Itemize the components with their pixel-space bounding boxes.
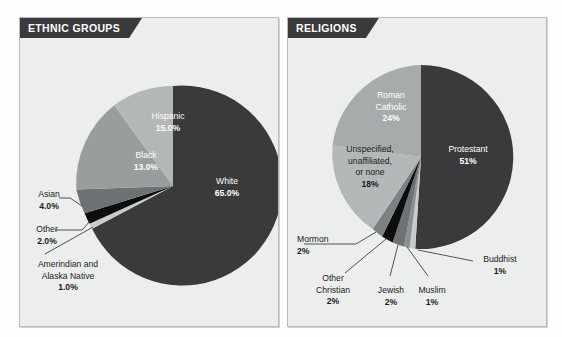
figure-root: ETHNIC GROUPS White 65.0% (0, 0, 562, 337)
slice-label-other-christian: Other Christian 2% (298, 273, 368, 308)
panel-ethnic-groups: ETHNIC GROUPS White 65.0% (19, 17, 279, 327)
slice-label-black: Black 13.0% (108, 150, 184, 173)
slice-label-mormon: Mormon 2% (297, 234, 367, 257)
leader-line-jewish (390, 245, 398, 276)
slice-label-white: White 65.0% (187, 176, 267, 199)
slice-label-muslim: Muslim 1% (405, 285, 459, 308)
slice-label-other: Other 2.0% (20, 224, 74, 247)
slice-label-roman-catholic: Roman Catholic 24% (351, 90, 431, 125)
panel-religions: RELIGIONS (287, 17, 547, 327)
slice-label-hispanic: Hispanic 15.0% (130, 111, 206, 134)
leader-line-buddhist (418, 250, 473, 261)
slice-label-protestant: Protestant 51% (428, 144, 508, 167)
slice-label-amerindian-alaska-native: Amerindian and Alaska Native 1.0% (19, 259, 118, 294)
slice-label-asian: Asian 4.0% (22, 189, 76, 212)
slice-label-unspecified-unaffiliated-or-none: Unspecified, unaffiliated, or none 18% (324, 144, 416, 190)
slice-label-buddhist: Buddhist 1% (468, 254, 532, 277)
